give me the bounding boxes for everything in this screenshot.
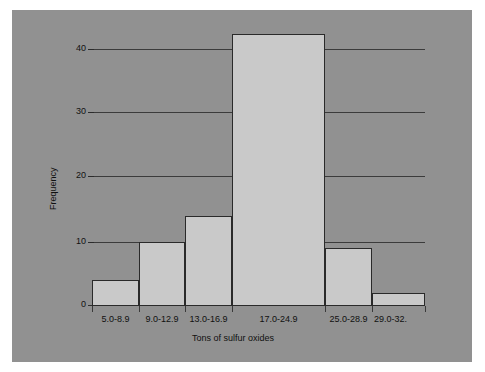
- ytick-label-0: 0: [62, 300, 86, 309]
- xtick-1: [139, 306, 140, 312]
- ytick-label-20: 20: [62, 171, 86, 180]
- xtick-4: [325, 306, 326, 312]
- bar-1[interactable]: [139, 242, 185, 306]
- figure-root: 40 30 20 10 0: [0, 0, 485, 372]
- chart-panel: 40 30 20 10 0: [12, 10, 472, 362]
- ytick-label-10: 10: [62, 237, 86, 246]
- bar-2[interactable]: [185, 216, 232, 306]
- xtick-2: [185, 306, 186, 312]
- xtick-3: [232, 306, 233, 312]
- ytick-dash-40: [88, 49, 94, 50]
- xtick-6: [425, 306, 426, 312]
- xtick-5: [372, 306, 373, 312]
- xtick-label-2: 13.0-16.9: [184, 314, 233, 324]
- ytick-dash-10: [88, 242, 94, 243]
- ytick-label-30: 30: [62, 107, 86, 116]
- plot-area: 40 30 20 10 0: [12, 10, 472, 362]
- y-axis-title: Frequency: [48, 167, 58, 210]
- bar-4[interactable]: [325, 248, 372, 306]
- bar-0[interactable]: [92, 280, 139, 306]
- xtick-label-3: 17.0-24.9: [232, 314, 325, 324]
- ytick-label-40: 40: [62, 44, 86, 53]
- bar-5[interactable]: [372, 293, 425, 306]
- x-axis-title: Tons of sulfur oxides: [192, 333, 274, 343]
- ytick-dash-30: [88, 112, 94, 113]
- xtick-label-5: 29.0-32.: [374, 314, 426, 324]
- ytick-dash-20: [88, 176, 94, 177]
- xtick-label-4: 25.0-28.9: [324, 314, 373, 324]
- xtick-0: [92, 306, 93, 312]
- xtick-label-0: 5.0-8.9: [92, 314, 139, 324]
- bar-3[interactable]: [232, 34, 325, 306]
- xtick-label-1: 9.0-12.9: [138, 314, 186, 324]
